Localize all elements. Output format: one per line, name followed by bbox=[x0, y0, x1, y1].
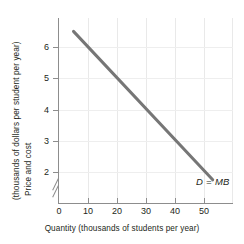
gridline-horizontal bbox=[58, 78, 233, 79]
y-axis-title-line2: (thousands of dollars per student per ye… bbox=[12, 41, 21, 200]
y-tick-2 bbox=[53, 172, 59, 173]
gridline-horizontal bbox=[58, 110, 233, 111]
x-tick-30 bbox=[146, 198, 147, 204]
chart-figure: Price and cost (thousands of dollars per… bbox=[0, 0, 244, 244]
series-label-demand: D = MB bbox=[196, 176, 230, 187]
x-tick-label-30: 30 bbox=[134, 206, 158, 216]
x-tick-40 bbox=[175, 198, 176, 204]
x-tick-50 bbox=[204, 198, 205, 204]
x-tick-label-10: 10 bbox=[76, 206, 100, 216]
y-tick-label-4: 4 bbox=[31, 105, 49, 115]
x-tick-label-40: 40 bbox=[163, 206, 187, 216]
y-tick-label-2: 2 bbox=[31, 167, 49, 177]
x-axis-title: Quantity (thousands of students per year… bbox=[0, 224, 244, 233]
y-tick-4 bbox=[53, 110, 59, 111]
x-tick-label-50: 50 bbox=[192, 206, 216, 216]
gridline-horizontal bbox=[58, 172, 233, 173]
demand-curve-line bbox=[74, 31, 213, 179]
y-tick-6 bbox=[53, 47, 59, 48]
x-tick-10 bbox=[88, 198, 89, 204]
y-tick-5 bbox=[53, 78, 59, 79]
x-tick-label-20: 20 bbox=[105, 206, 129, 216]
y-tick-label-6: 6 bbox=[31, 42, 49, 52]
gridline-horizontal bbox=[58, 141, 233, 142]
y-tick-3 bbox=[53, 141, 59, 142]
x-tick-20 bbox=[117, 198, 118, 204]
x-tick-label-0: 0 bbox=[47, 206, 71, 216]
y-tick-label-5: 5 bbox=[31, 73, 49, 83]
gridline-horizontal bbox=[58, 47, 233, 48]
y-tick-label-3: 3 bbox=[31, 136, 49, 146]
